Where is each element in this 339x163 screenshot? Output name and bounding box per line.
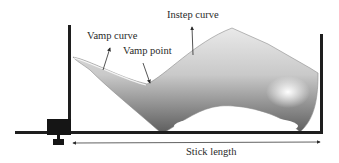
shoe-last-diagram: Vamp curve Vamp point Instep curve Stick… [0, 0, 339, 163]
stick-length-label: Stick length [186, 147, 236, 158]
shoe-last [73, 28, 318, 136]
clamp-neck [57, 134, 60, 140]
diagram-canvas [0, 0, 339, 163]
left-post [68, 25, 71, 134]
vamp-curve-label: Vamp curve [87, 31, 137, 42]
vamp-curve-leader [103, 48, 110, 70]
clamp-block [47, 119, 71, 135]
right-post [320, 34, 323, 134]
vamp-point-leader [143, 63, 150, 83]
instep-curve-label: Instep curve [167, 10, 219, 21]
vamp-point-label: Vamp point [123, 46, 172, 57]
stick-length-arrow [73, 142, 320, 143]
heel-highlight [266, 76, 310, 108]
